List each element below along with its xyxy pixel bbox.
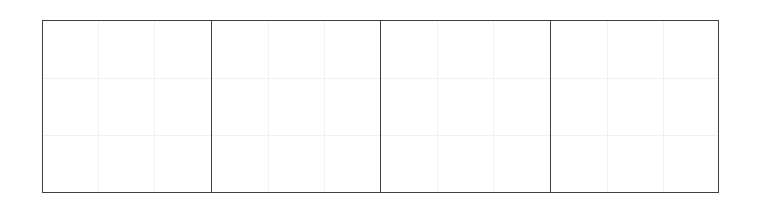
gridline-horizontal (212, 78, 381, 79)
gridline-vertical (154, 20, 155, 193)
facet-panel-strip (42, 20, 719, 193)
gridline-vertical (607, 20, 608, 193)
gridline-horizontal (212, 135, 381, 136)
gridline-vertical (268, 20, 269, 193)
facet-panel-4[interactable] (551, 20, 720, 193)
gridline-horizontal (551, 135, 720, 136)
gridline-vertical (324, 20, 325, 193)
gridline-vertical (437, 20, 438, 193)
facet-panel-1[interactable] (42, 20, 212, 193)
gridline-horizontal (42, 135, 211, 136)
gridline-horizontal (381, 78, 550, 79)
gridline-vertical (663, 20, 664, 193)
gridline-horizontal (42, 78, 211, 79)
chart-figure (0, 0, 759, 205)
facet-panel-2[interactable] (212, 20, 382, 193)
facet-panel-3[interactable] (381, 20, 551, 193)
gridline-horizontal (381, 135, 550, 136)
gridline-vertical (98, 20, 99, 193)
gridline-vertical (493, 20, 494, 193)
gridline-horizontal (551, 78, 720, 79)
